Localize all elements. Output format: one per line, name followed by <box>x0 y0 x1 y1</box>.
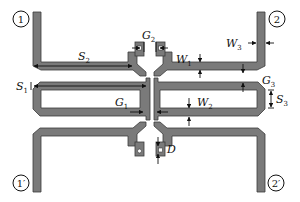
port-2-prime-marker: 2′ <box>268 175 284 191</box>
port-1-marker: 1 <box>13 11 29 27</box>
label-s3: S3 <box>276 93 288 108</box>
label-g3: G3 <box>262 74 275 89</box>
label-g2: G2 <box>142 29 155 44</box>
trace-middle-left-loop <box>33 78 150 120</box>
coupled-line-diagram: 1 2 1′ 2′ S2 G2 W1 W3 G3 S3 S1 G1 <box>0 0 300 202</box>
label-s1: S1 <box>16 80 28 95</box>
trace-port1p-arm <box>33 122 146 192</box>
port-1-prime-marker: 1′ <box>13 175 29 191</box>
trace-port2p-arm <box>154 122 265 192</box>
trace-port2-arm <box>154 12 265 76</box>
via-hole-bottom-left <box>138 149 142 153</box>
svg-text:2: 2 <box>274 14 280 25</box>
label-s2: S2 <box>78 50 90 65</box>
svg-text:2′: 2′ <box>272 178 281 189</box>
label-d: D <box>166 143 176 156</box>
label-w2: W2 <box>197 96 213 111</box>
svg-text:1: 1 <box>18 14 24 25</box>
svg-text:1′: 1′ <box>17 178 26 189</box>
trace-middle-right-loop <box>154 78 265 120</box>
port-2-marker: 2 <box>269 11 285 27</box>
via-hole-bottom-right <box>159 148 163 152</box>
label-w3: W3 <box>226 37 242 52</box>
label-w1: W1 <box>176 53 192 68</box>
label-g1: G1 <box>115 96 128 111</box>
